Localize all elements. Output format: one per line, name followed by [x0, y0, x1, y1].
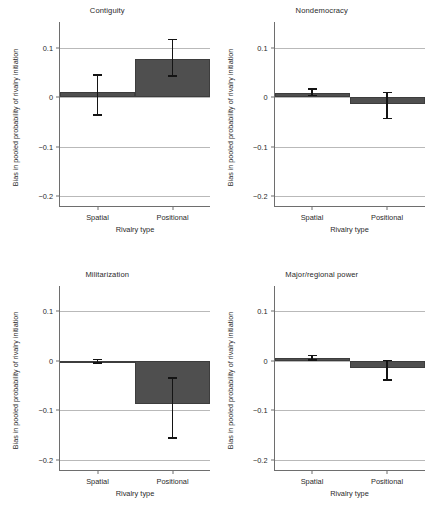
error-bar [167, 377, 179, 439]
x-axis-title: Rivalry type [60, 489, 210, 498]
error-bar-cap-top [168, 377, 177, 379]
y-tick-label: −0.1 [38, 142, 53, 151]
x-tick-label: Spatial [301, 213, 324, 222]
y-tick-label: 0 [49, 93, 53, 102]
y-axis-line [59, 286, 60, 470]
gridline [60, 48, 210, 49]
x-tick-mark [97, 470, 98, 474]
error-bar-cap-bottom [168, 75, 177, 77]
error-bar-cap-top [308, 88, 317, 90]
y-tick-label: −0.2 [253, 455, 268, 464]
plot-area: 0.10−0.1−0.2SpatialPositionalRivalry typ… [60, 292, 210, 470]
y-tick-label: −0.2 [38, 192, 53, 201]
error-bar-cap-top [383, 360, 392, 362]
plot-area: 0.10−0.1−0.2SpatialPositionalRivalry typ… [275, 292, 425, 470]
chart-panel: MilitarizationBias in pooled probability… [0, 264, 215, 527]
error-bar-cap-bottom [93, 362, 102, 364]
error-bar-cap-bottom [93, 114, 102, 116]
error-bar [381, 360, 393, 381]
plot-area: 0.10−0.1−0.2SpatialPositionalRivalry typ… [275, 28, 425, 206]
error-bar-stem [172, 377, 174, 439]
gridline [60, 410, 210, 411]
x-tick-label: Spatial [301, 477, 324, 486]
y-tick-label: 0.1 [43, 307, 53, 316]
y-tick-label: 0.1 [257, 307, 267, 316]
y-axis-title: Bias in pooled probability of rivalry in… [225, 28, 237, 206]
panel-title: Militarization [0, 270, 215, 279]
gridline [275, 48, 425, 49]
x-tick-label: Spatial [86, 213, 109, 222]
y-tick-label: −0.1 [253, 142, 268, 151]
error-bar-cap-top [308, 355, 317, 357]
x-tick-label: Positional [371, 477, 403, 486]
error-bar [306, 355, 318, 361]
gridline [275, 311, 425, 312]
figure-grid: ContiguityBias in pooled probability of … [0, 0, 429, 527]
y-tick-label: 0 [263, 356, 267, 365]
gridline [275, 196, 425, 197]
x-tick-label: Positional [156, 213, 188, 222]
error-bar [381, 92, 393, 120]
error-bar-stem [97, 74, 99, 116]
error-bar-cap-bottom [308, 359, 317, 361]
x-tick-mark [172, 206, 173, 210]
y-axis-line [59, 22, 60, 206]
y-axis-line [274, 286, 275, 470]
x-axis-title: Rivalry type [275, 489, 425, 498]
x-tick-label: Positional [371, 213, 403, 222]
gridline [60, 196, 210, 197]
panel-title: Nondemocracy [215, 6, 429, 15]
gridline [275, 147, 425, 148]
chart-panel: Major/regional powerBias in pooled proba… [215, 264, 429, 527]
error-bar-cap-top [93, 74, 102, 76]
y-tick-label: −0.1 [253, 406, 268, 415]
plot-area: 0.10−0.1−0.2SpatialPositionalRivalry typ… [60, 28, 210, 206]
x-axis-line [59, 470, 210, 471]
error-bar [92, 359, 104, 364]
y-tick-label: −0.2 [38, 455, 53, 464]
y-tick-label: −0.1 [38, 406, 53, 415]
x-tick-mark [97, 206, 98, 210]
gridline [60, 460, 210, 461]
error-bar [167, 39, 179, 77]
x-tick-mark [312, 470, 313, 474]
y-axis-title-text: Bias in pooled probability of rivalry in… [226, 312, 235, 449]
y-axis-line [274, 22, 275, 206]
x-tick-label: Spatial [86, 477, 109, 486]
y-axis-title: Bias in pooled probability of rivalry in… [10, 28, 22, 206]
error-bar-stem [172, 39, 174, 77]
error-bar-cap-top [168, 39, 177, 41]
x-tick-mark [387, 206, 388, 210]
error-bar-cap-top [383, 92, 392, 94]
y-tick-label: 0.1 [43, 43, 53, 52]
x-axis-line [274, 470, 425, 471]
error-bar-stem [386, 92, 388, 120]
chart-panel: ContiguityBias in pooled probability of … [0, 0, 215, 264]
error-bar [306, 88, 318, 96]
y-axis-title: Bias in pooled probability of rivalry in… [225, 292, 237, 470]
x-tick-label: Positional [156, 477, 188, 486]
error-bar-stem [386, 360, 388, 381]
y-axis-title-text: Bias in pooled probability of rivalry in… [12, 48, 21, 185]
error-bar-cap-bottom [383, 118, 392, 120]
x-tick-mark [387, 470, 388, 474]
y-tick-label: 0 [263, 93, 267, 102]
error-bar-cap-bottom [383, 379, 392, 381]
x-tick-mark [312, 206, 313, 210]
y-tick-label: 0.1 [257, 43, 267, 52]
y-tick-label: −0.2 [253, 192, 268, 201]
y-axis-title-text: Bias in pooled probability of rivalry in… [12, 312, 21, 449]
gridline [60, 147, 210, 148]
gridline [275, 460, 425, 461]
gridline [275, 410, 425, 411]
y-tick-label: 0 [49, 356, 53, 365]
x-axis-title: Rivalry type [60, 225, 210, 234]
y-axis-title: Bias in pooled probability of rivalry in… [10, 292, 22, 470]
gridline [60, 97, 210, 98]
gridline [60, 311, 210, 312]
panel-title: Major/regional power [215, 270, 429, 279]
panel-title: Contiguity [0, 6, 215, 15]
error-bar-cap-bottom [308, 95, 317, 97]
error-bar-cap-bottom [168, 437, 177, 439]
error-bar-cap-top [93, 359, 102, 361]
